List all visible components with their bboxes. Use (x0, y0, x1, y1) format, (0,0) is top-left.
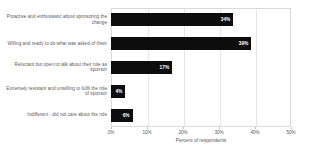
bar-container: 4% (111, 79, 125, 103)
x-tick-label: 20% (178, 130, 187, 136)
bar-container: 39% (111, 32, 251, 56)
bar-row: Extremely resistant and unwilling to ful… (0, 79, 310, 103)
bar-container: 34% (111, 8, 233, 32)
bar-segment[interactable]: 4% (111, 85, 125, 98)
bar-container: 17% (111, 56, 172, 80)
x-tick-label: 0% (108, 130, 115, 136)
category-label: Proactive and enthusiastic about sponsor… (2, 14, 107, 25)
category-label: Indifferent - did not care about the rol… (2, 112, 107, 118)
category-label: Willing and ready to do what was asked o… (2, 41, 107, 47)
category-label: Extremely resistant and unwilling to ful… (2, 86, 107, 97)
bar-value-label: 4% (115, 89, 122, 94)
category-label: Reluctant but open to talk about their r… (2, 62, 107, 73)
x-tick-mark (219, 127, 220, 129)
x-tick-mark (291, 127, 292, 129)
bar-value-label: 6% (123, 113, 130, 118)
bar-row: Reluctant but open to talk about their r… (0, 56, 310, 80)
bar-segment[interactable]: 39% (111, 37, 251, 50)
bar-container: 6% (111, 103, 133, 127)
x-tick-label: 50% (286, 130, 295, 136)
x-tick-label: 40% (250, 130, 259, 136)
x-tick-mark (255, 127, 256, 129)
bar-segment[interactable]: 6% (111, 109, 133, 122)
bar-value-label: 34% (221, 17, 231, 22)
bar-chart: Proactive and enthusiastic about sponsor… (0, 0, 310, 153)
bar-segment[interactable]: 34% (111, 13, 233, 26)
bar-segment[interactable]: 17% (111, 61, 172, 74)
x-axis: 0% 10% 20% 30% 40% 50% Percent of respon… (111, 127, 291, 153)
bar-rows: Proactive and enthusiastic about sponsor… (0, 0, 310, 127)
bar-value-label: 17% (160, 65, 170, 70)
x-tick-label: 30% (214, 130, 223, 136)
x-axis-title: Percent of respondents (111, 138, 291, 144)
x-tick-label: 10% (142, 130, 151, 136)
bar-row: Proactive and enthusiastic about sponsor… (0, 8, 310, 32)
bar-value-label: 39% (239, 41, 249, 46)
x-tick-mark (183, 127, 184, 129)
x-tick-mark (147, 127, 148, 129)
bar-row: Indifferent - did not care about the rol… (0, 103, 310, 127)
x-tick-mark (111, 127, 112, 129)
bar-row: Willing and ready to do what was asked o… (0, 32, 310, 56)
